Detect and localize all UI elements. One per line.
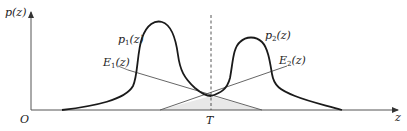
x-axis-label: z: [394, 111, 401, 124]
origin-label: O: [20, 113, 29, 126]
e1-label: E1(z): [102, 56, 130, 70]
p2-curve: [211, 38, 342, 111]
threshold-label: T: [206, 114, 215, 127]
y-axis-label: p(z): [5, 6, 26, 19]
density-diagram: p(z) O z T p1(z) E1(z) p2(z) E2(z): [0, 0, 407, 131]
e2-label: E2(z): [278, 54, 306, 68]
p1-label: p1(z): [118, 33, 144, 47]
p2-label: p2(z): [265, 29, 291, 43]
